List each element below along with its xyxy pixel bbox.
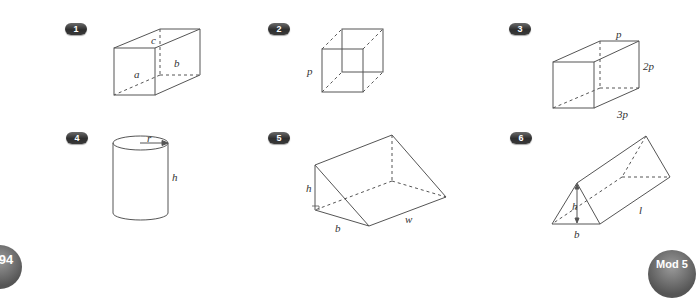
label-l: l [639,204,642,216]
label-w: w [405,213,413,225]
label-c: c [151,34,156,46]
module-label: Mod 5 [656,258,688,270]
label-h-cylinder: h [172,171,178,183]
label-a: a [134,68,140,80]
label-3p: 3p [616,108,629,120]
triangular-prism-figure-6 [552,136,670,224]
label-r: r [147,132,152,144]
cuboid-figure-3 [553,41,639,108]
label-p: p [306,65,313,77]
label-b: b [174,57,180,69]
label-b-wedge: b [335,222,341,234]
label-2p: 2p [643,60,655,72]
label-top-p: p [615,28,622,40]
cylinder-figure-4 [113,136,168,220]
label-b-prism: b [574,228,580,240]
wedge-figure-5 [312,135,446,226]
label-h-wedge: h [306,182,312,194]
module-badge: Mod 5 [648,250,696,298]
cube-figure-2 [322,29,383,92]
cuboid-figure-1 [114,29,200,95]
label-h-prism: h [572,200,578,212]
page-number: 94 [0,252,13,267]
